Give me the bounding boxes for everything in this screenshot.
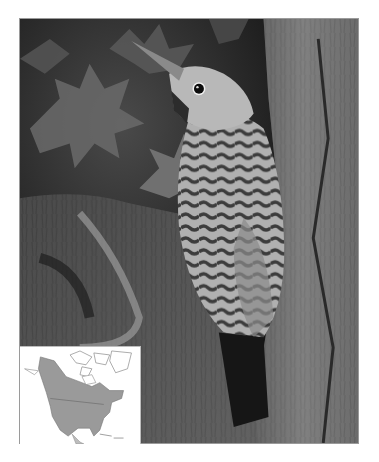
- range-map-inset: [20, 346, 141, 444]
- north-america-map: [20, 347, 140, 444]
